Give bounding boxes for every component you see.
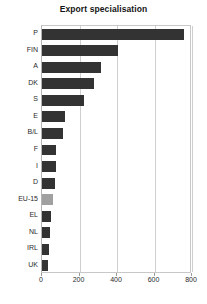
y-axis-tick-label: EU-15 (0, 195, 38, 203)
y-axis-tick-label: NL (0, 228, 38, 236)
y-axis-tick-label: DK (0, 79, 38, 87)
x-axis-tick-label: 800 (185, 276, 197, 283)
y-axis-tick-label: B/L (0, 128, 38, 136)
x-axis-labels: 0200400600800 (0, 276, 207, 290)
bar-nl (42, 227, 50, 238)
x-axis-tick-label: 400 (110, 276, 122, 283)
chart-title: Export specialisation (0, 4, 207, 14)
bar-s (42, 95, 84, 106)
y-axis-tick-label: F (0, 145, 38, 153)
bar-fin (42, 45, 118, 56)
chart-figure: Export specialisation PFINADKSEB/LFIDEU-… (0, 0, 207, 304)
gridline (192, 26, 193, 272)
y-axis-tick-label: UK (0, 261, 38, 269)
x-axis-tick-label: 0 (39, 276, 43, 283)
bar-series (42, 26, 190, 272)
y-axis-tick-label: I (0, 162, 38, 170)
bar-el (42, 211, 51, 222)
x-axis-tick (191, 273, 192, 276)
x-axis-tick-label: 200 (73, 276, 85, 283)
bar-f (42, 145, 56, 156)
y-axis-labels: PFINADKSEB/LFIDEU-15ELNLIRLUK (0, 25, 38, 273)
bar-b-l (42, 128, 63, 139)
plot-area (41, 25, 191, 273)
bar-d (42, 178, 55, 189)
x-axis-tick (154, 273, 155, 276)
y-axis-tick-label: D (0, 178, 38, 186)
bar-e (42, 111, 65, 122)
y-axis-tick-label: IRL (0, 244, 38, 252)
bar-a (42, 62, 101, 73)
bar-uk (42, 260, 48, 271)
bar-p (42, 29, 184, 40)
bar-irl (42, 244, 49, 255)
y-axis-tick-label: S (0, 95, 38, 103)
bar-i (42, 161, 56, 172)
y-axis-tick-label: E (0, 112, 38, 120)
bar-dk (42, 78, 94, 89)
x-axis-tick (116, 273, 117, 276)
y-axis-tick-label: FIN (0, 46, 38, 54)
bar-eu-15 (42, 194, 53, 205)
x-axis-tick (41, 273, 42, 276)
y-axis-tick-label: P (0, 29, 38, 37)
y-axis-tick-label: A (0, 62, 38, 70)
x-axis-tick (79, 273, 80, 276)
x-axis-tick-label: 600 (148, 276, 160, 283)
y-axis-tick-label: EL (0, 211, 38, 219)
